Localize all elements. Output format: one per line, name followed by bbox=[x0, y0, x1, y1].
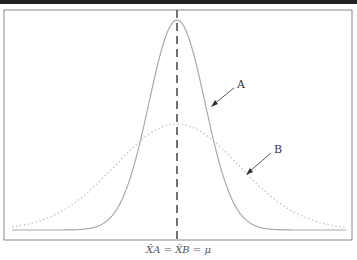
curve-b bbox=[12, 124, 346, 227]
x-axis-label: X̄A = X̄B = μ bbox=[0, 244, 357, 255]
frame bbox=[4, 10, 352, 240]
arrow-b bbox=[249, 153, 271, 172]
distribution-diagram bbox=[0, 0, 357, 260]
label-a: A bbox=[237, 78, 245, 91]
curve-a bbox=[12, 20, 346, 230]
arrow-a-head bbox=[211, 100, 218, 107]
label-b: B bbox=[274, 143, 282, 156]
